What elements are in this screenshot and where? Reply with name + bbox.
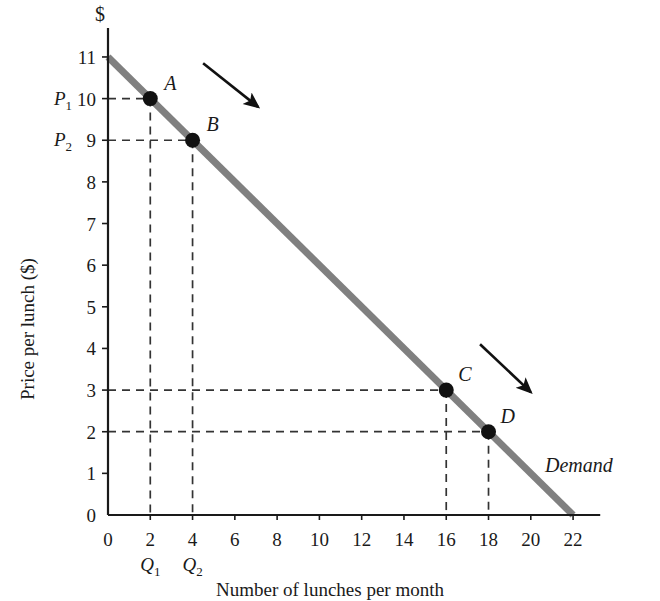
y-tick-label-3: 3 (62, 381, 96, 400)
y-tick-label-7: 7 (62, 215, 96, 234)
y-tick-label-1: 1 (62, 464, 96, 483)
demand-curve-label: Demand (545, 455, 613, 475)
x-axis-title: Number of lunches per month (0, 580, 660, 599)
data-point-label-D: D (501, 406, 515, 426)
demand-curve-figure: $ Price per lunch ($) Number of lunches … (0, 0, 660, 601)
data-point-A (143, 91, 158, 106)
x-tick-label-0: 0 (88, 530, 128, 549)
x-tick-label-6: 6 (215, 530, 255, 549)
axes (108, 28, 600, 515)
data-point-D (481, 424, 496, 439)
annotation-arrows (203, 63, 531, 392)
movement-arrow-lower (480, 344, 531, 392)
y-tick-label-8: 8 (62, 173, 96, 192)
movement-arrow-upper (203, 63, 258, 107)
y-axis-title: Price per lunch ($) (18, 258, 37, 400)
price-label-p2: P2 (54, 130, 72, 153)
x-tick-label-10: 10 (299, 530, 339, 549)
y-tick-label-0: 0 (62, 506, 96, 525)
price-label-p1: P1 (54, 89, 72, 112)
demand-curve-line (108, 57, 573, 515)
dashed-guide-lines (108, 99, 489, 515)
quantity-label-q1: Q1 (130, 555, 170, 578)
y-tick-label-11: 11 (62, 48, 96, 67)
x-tick-label-20: 20 (511, 530, 551, 549)
chart-canvas (0, 0, 660, 601)
data-point-label-C: C (458, 364, 471, 384)
y-tick-label-5: 5 (62, 298, 96, 317)
data-point-B (185, 133, 200, 148)
y-axis-unit-symbol: $ (95, 4, 105, 24)
x-tick-label-14: 14 (384, 530, 424, 549)
x-tick-label-12: 12 (342, 530, 382, 549)
data-point-label-B: B (207, 114, 219, 134)
x-tick-label-4: 4 (173, 530, 213, 549)
quantity-label-q2: Q2 (173, 555, 213, 578)
tick-marks (102, 57, 573, 520)
x-tick-label-18: 18 (469, 530, 509, 549)
x-tick-label-22: 22 (553, 530, 593, 549)
x-tick-label-16: 16 (426, 530, 466, 549)
data-point-C (439, 383, 454, 398)
y-tick-label-4: 4 (62, 339, 96, 358)
y-tick-label-6: 6 (62, 256, 96, 275)
data-point-label-A: A (164, 73, 176, 93)
y-tick-label-2: 2 (62, 423, 96, 442)
x-tick-label-8: 8 (257, 530, 297, 549)
x-tick-label-2: 2 (130, 530, 170, 549)
